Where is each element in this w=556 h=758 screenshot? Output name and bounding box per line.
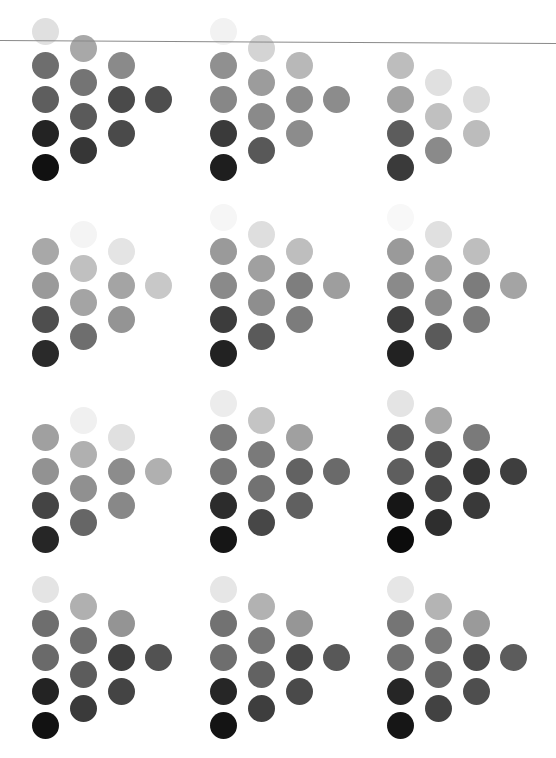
circle-icon bbox=[387, 306, 414, 333]
circle-icon bbox=[248, 323, 275, 350]
circle-icon bbox=[32, 458, 59, 485]
circle-icon bbox=[323, 458, 350, 485]
circle-icon bbox=[210, 204, 237, 231]
circle-icon bbox=[387, 644, 414, 671]
circle-icon bbox=[463, 306, 490, 333]
circle-icon bbox=[32, 390, 59, 417]
circle-icon bbox=[32, 204, 59, 231]
circle-icon bbox=[425, 289, 452, 316]
circle-icon bbox=[32, 712, 59, 739]
circle-icon bbox=[108, 678, 135, 705]
circle-icon bbox=[387, 340, 414, 367]
circle-icon bbox=[286, 120, 313, 147]
circle-icon bbox=[425, 441, 452, 468]
circle-icon bbox=[32, 272, 59, 299]
circle-icon bbox=[210, 52, 237, 79]
circle-icon bbox=[70, 509, 97, 536]
circle-icon bbox=[248, 695, 275, 722]
circle-icon bbox=[248, 661, 275, 688]
circle-icon bbox=[387, 204, 414, 231]
circle-icon bbox=[387, 18, 414, 45]
circle-icon bbox=[425, 661, 452, 688]
circle-icon bbox=[145, 272, 172, 299]
circle-icon bbox=[32, 576, 59, 603]
circle-icon bbox=[387, 390, 414, 417]
circle-icon bbox=[108, 238, 135, 265]
circle-icon bbox=[286, 610, 313, 637]
circle-icon bbox=[425, 35, 452, 62]
circle-icon bbox=[387, 238, 414, 265]
circle-icon bbox=[248, 407, 275, 434]
circle-icon bbox=[70, 255, 97, 282]
circle-icon bbox=[210, 644, 237, 671]
circle-icon bbox=[108, 424, 135, 451]
circle-icon bbox=[248, 289, 275, 316]
circle-icon bbox=[500, 644, 527, 671]
circle-icon bbox=[210, 272, 237, 299]
circle-icon bbox=[387, 52, 414, 79]
circle-icon bbox=[210, 712, 237, 739]
circle-icon bbox=[70, 593, 97, 620]
circle-icon bbox=[387, 458, 414, 485]
circle-icon bbox=[210, 154, 237, 181]
circle-icon bbox=[32, 306, 59, 333]
circle-icon bbox=[286, 424, 313, 451]
circle-icon bbox=[70, 661, 97, 688]
circle-icon bbox=[387, 272, 414, 299]
circle-icon bbox=[248, 593, 275, 620]
circle-icon bbox=[248, 475, 275, 502]
circle-icon bbox=[70, 695, 97, 722]
circle-icon bbox=[210, 492, 237, 519]
circle-icon bbox=[248, 441, 275, 468]
circle-icon bbox=[248, 69, 275, 96]
circle-icon bbox=[70, 407, 97, 434]
circle-icon bbox=[425, 509, 452, 536]
circle-icon bbox=[70, 221, 97, 248]
circle-icon bbox=[463, 120, 490, 147]
circle-icon bbox=[32, 644, 59, 671]
circle-icon bbox=[387, 610, 414, 637]
circle-icon bbox=[463, 610, 490, 637]
circle-icon bbox=[108, 272, 135, 299]
circle-icon bbox=[286, 272, 313, 299]
circle-icon bbox=[210, 526, 237, 553]
circle-icon bbox=[323, 272, 350, 299]
circle-icon bbox=[210, 340, 237, 367]
circle-icon bbox=[387, 154, 414, 181]
circle-icon bbox=[387, 678, 414, 705]
circle-icon bbox=[70, 289, 97, 316]
circle-icon bbox=[248, 627, 275, 654]
circle-icon bbox=[248, 255, 275, 282]
circle-icon bbox=[210, 576, 237, 603]
circle-icon bbox=[32, 678, 59, 705]
circle-icon bbox=[463, 644, 490, 671]
circle-icon bbox=[108, 306, 135, 333]
circle-icon bbox=[500, 458, 527, 485]
circle-icon bbox=[32, 340, 59, 367]
circle-icon bbox=[145, 458, 172, 485]
circle-icon bbox=[463, 86, 490, 113]
circle-icon bbox=[425, 627, 452, 654]
circle-icon bbox=[32, 526, 59, 553]
circle-icon bbox=[248, 509, 275, 536]
circle-icon bbox=[463, 272, 490, 299]
circle-icon bbox=[463, 52, 490, 79]
circle-icon bbox=[210, 120, 237, 147]
circle-icon bbox=[387, 526, 414, 553]
circle-icon bbox=[286, 238, 313, 265]
circle-icon bbox=[425, 593, 452, 620]
circle-icon bbox=[210, 238, 237, 265]
circle-icon bbox=[387, 492, 414, 519]
circle-icon bbox=[210, 678, 237, 705]
circle-icon bbox=[32, 492, 59, 519]
circle-icon bbox=[425, 695, 452, 722]
circle-icon bbox=[286, 644, 313, 671]
circle-icon bbox=[248, 137, 275, 164]
circle-icon bbox=[425, 475, 452, 502]
circle-icon bbox=[323, 86, 350, 113]
circle-icon bbox=[145, 644, 172, 671]
circle-icon bbox=[425, 221, 452, 248]
circle-icon bbox=[108, 644, 135, 671]
dot-group-r4-c3 bbox=[0, 0, 150, 170]
circle-icon bbox=[210, 610, 237, 637]
